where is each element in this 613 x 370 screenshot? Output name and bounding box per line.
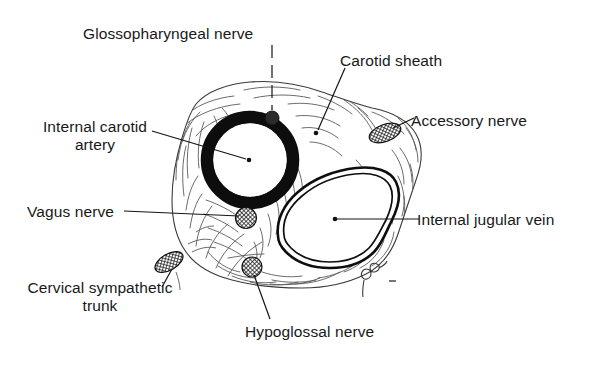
carotid-sheath-dot	[314, 131, 319, 136]
internal-carotid-dot	[247, 158, 252, 163]
label-internal-carotid-artery: Internal carotid artery	[22, 118, 168, 155]
label-internal-carotid-artery-line2: artery	[22, 136, 168, 154]
label-cervical-sympathetic-trunk-line2: trunk	[20, 297, 180, 315]
anatomy-figure: Glossopharyngeal nerve Carotid sheath In…	[0, 0, 613, 370]
internal-jugular-dot	[333, 217, 338, 222]
label-cervical-sympathetic-trunk: Cervical sympathetic trunk	[20, 279, 180, 316]
label-accessory-nerve: Accessory nerve	[411, 112, 527, 130]
glossopharyngeal-nerve-marker	[265, 111, 279, 125]
label-hypoglossal-nerve: Hypoglossal nerve	[245, 323, 374, 341]
label-internal-jugular-vein: Internal jugular vein	[417, 211, 554, 229]
label-vagus-nerve: Vagus nerve	[27, 203, 114, 221]
label-carotid-sheath: Carotid sheath	[340, 52, 442, 70]
label-internal-carotid-artery-line1: Internal carotid	[22, 118, 168, 136]
vagus-nerve-marker	[236, 208, 257, 229]
label-cervical-sympathetic-trunk-line1: Cervical sympathetic	[20, 279, 180, 297]
hypoglossal-nerve-marker	[242, 257, 262, 277]
label-glossopharyngeal-nerve: Glossopharyngeal nerve	[83, 25, 253, 43]
